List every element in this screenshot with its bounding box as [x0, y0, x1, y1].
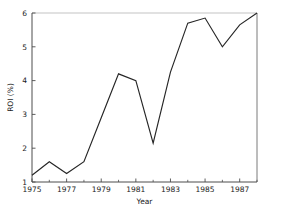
y-tick-label: 5: [22, 43, 27, 52]
chart-figure: 123456 1975197719791981198319851987 Year…: [0, 0, 289, 211]
x-tick-label: 1987: [230, 185, 249, 194]
x-tick-label: 1985: [196, 185, 215, 194]
x-tick-label: 1979: [92, 185, 111, 194]
plot-area-background: [32, 13, 257, 182]
y-tick-label: 4: [22, 76, 27, 85]
y-tick-label: 6: [22, 9, 27, 18]
y-tick-label: 3: [22, 110, 27, 119]
x-tick-label: 1977: [57, 185, 76, 194]
y-axis-title: ROI (%): [6, 83, 15, 112]
line-chart: 123456 1975197719791981198319851987 Year…: [0, 0, 289, 211]
x-axis-title: Year: [136, 197, 154, 206]
y-tick-label: 2: [22, 144, 27, 153]
x-tick-label: 1975: [22, 185, 41, 194]
x-tick-label: 1981: [126, 185, 145, 194]
x-tick-label: 1983: [161, 185, 180, 194]
